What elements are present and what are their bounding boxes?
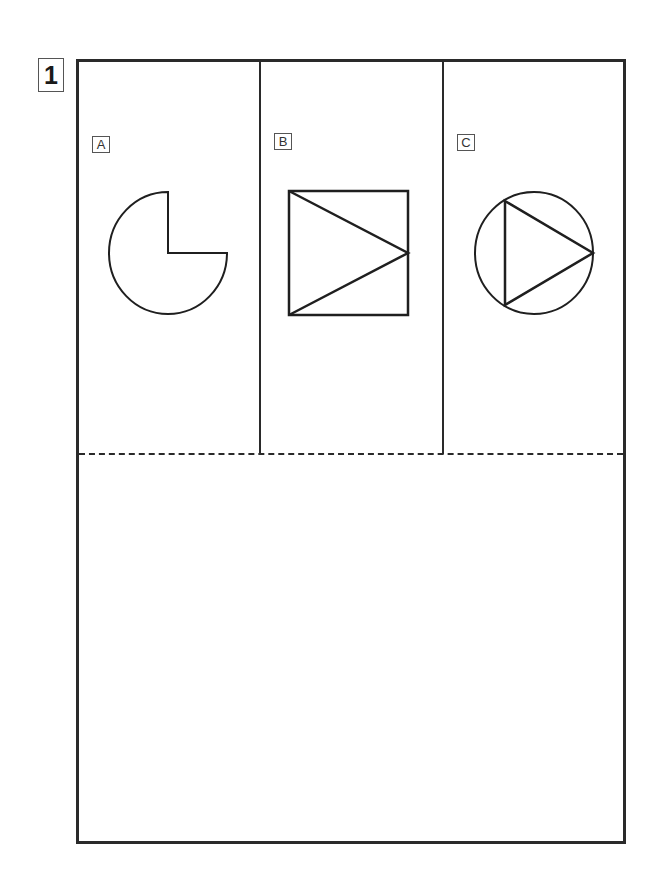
question-frame bbox=[76, 59, 626, 844]
panel-label-b: B bbox=[274, 133, 292, 150]
column-divider bbox=[259, 62, 261, 454]
question-number: 1 bbox=[38, 58, 64, 92]
dashed-separator bbox=[79, 453, 623, 455]
pacman-shape-icon bbox=[100, 185, 240, 325]
answer-area[interactable] bbox=[79, 457, 623, 841]
panel-label-c: C bbox=[457, 134, 475, 151]
panel-label-a: A bbox=[92, 136, 110, 153]
column-divider bbox=[442, 62, 444, 454]
square-triangle-icon bbox=[285, 187, 415, 320]
circle-triangle-icon bbox=[470, 188, 600, 318]
